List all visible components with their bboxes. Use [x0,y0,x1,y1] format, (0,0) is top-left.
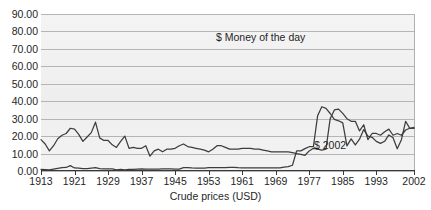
y-tick-label: 20.00 [0,131,38,141]
x-tick-label: 1937 [130,175,153,187]
x-tick-label: 1985 [331,175,354,187]
x-tick-label: 1913 [29,175,52,187]
y-tick-label: 60.00 [0,61,38,71]
series-line-money-of-the-day [41,107,414,170]
annotation-2002-dollars: $ 2002 [314,139,346,151]
y-tick-label: 30.00 [0,114,38,124]
y-tick-label: 10.00 [0,149,38,159]
x-tick-label: 1969 [264,175,287,187]
crude-prices-chart: 90.0080.0070.0060.0050.0040.0030.0020.00… [0,0,431,210]
x-tick-label: 1993 [365,175,388,187]
y-tick-label: 90.00 [0,9,38,19]
y-tick-label: 40.00 [0,96,38,106]
x-tick-label: 1977 [298,175,321,187]
y-tick-label: 50.00 [0,79,38,89]
x-tick-label: 1961 [230,175,253,187]
annotation-money-of-the-day: $ Money of the day [216,31,305,43]
y-tick-label: 80.00 [0,26,38,36]
x-tick-label: 1945 [163,175,186,187]
x-axis-title: Crude prices (USD) [0,190,431,202]
x-tick-label: 1921 [63,175,86,187]
series-line-2002 [41,109,414,156]
gridline-0 [41,171,414,172]
y-tick-label: 70.00 [0,44,38,54]
x-tick-label: 2002 [402,175,425,187]
x-tick-label: 1929 [96,175,119,187]
x-tick-label: 1953 [197,175,220,187]
x-axis-line [41,170,415,171]
